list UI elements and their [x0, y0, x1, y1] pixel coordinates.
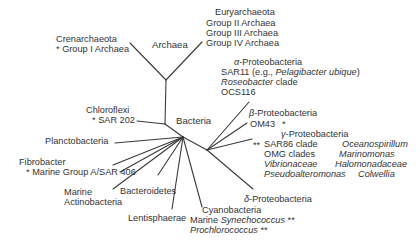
prochlorococcus-mark: ** — [258, 225, 268, 235]
sar11-prefix: SAR11 (e.g., — [221, 67, 275, 77]
label-fibrobacter: Fibrobacter — [19, 157, 65, 167]
label-lentisphaerae: Lentisphaerae — [128, 213, 186, 223]
label-alpha-proteobacteria: α-Proteobacteria — [234, 57, 302, 67]
label-oceanospirillum: Oceanospirillum — [342, 139, 408, 149]
label-cyanobacteria: Cyanobacteria — [202, 205, 261, 215]
delta-name: -Proteobacteria — [249, 194, 312, 204]
synechococcus-mark: ** — [285, 215, 295, 225]
label-sar86: SAR86 clade — [264, 139, 318, 149]
label-gamma-proteobacteria: γ-Proteobacteria — [281, 129, 348, 139]
synechococcus: Synechococcus — [221, 215, 285, 225]
roseobacter-suffix: clade — [273, 77, 298, 87]
label-marine-group-a: * Marine Group A/SAR 406 — [26, 167, 136, 177]
branch-bacteroidetes — [158, 137, 183, 175]
om43-mark: * — [282, 119, 286, 129]
label-om43: OM43* — [250, 119, 286, 129]
prochlorococcus: Prochlorococcus — [190, 225, 258, 235]
synechococcus-prefix: Marine — [190, 215, 221, 225]
branch-actinobacteria — [113, 137, 183, 189]
label-pseudoalteromonas: Pseudoalteromonas — [264, 169, 346, 179]
label-marine: Marine — [64, 187, 92, 197]
label-marine-synechococcus: Marine Synechococcus ** — [190, 215, 295, 225]
label-group-iv-archaea: Group IV Archaea — [206, 38, 279, 48]
branch-gamma — [207, 139, 252, 150]
label-roseobacter: Roseobacter clade — [221, 77, 298, 87]
label-colwellia: Colwellia — [358, 169, 395, 179]
label-group-iii-archaea: Group III Archaea — [206, 28, 278, 38]
branch-proteobacteria-stem — [183, 137, 207, 150]
branch-delta — [207, 150, 253, 189]
branch-fibrobacter — [113, 137, 183, 165]
branch-archaea-bacteria-trunk — [165, 80, 166, 124]
branch-chloroflexi — [137, 121, 165, 124]
label-bacteroidetes: Bacteroidetes — [120, 186, 176, 196]
gamma-name: -Proteobacteria — [286, 129, 349, 139]
label-planctobacteria: Planctobacteria — [45, 136, 108, 146]
sar11-suffix: ) — [357, 67, 360, 77]
label-archaea: Archaea — [152, 40, 188, 50]
label-delta-proteobacteria: δ-Proteobacteria — [244, 194, 312, 204]
label-chloroflexi: Chloroflexi — [86, 105, 129, 115]
label-ocs116: OCS116 — [221, 87, 256, 97]
beta-name: -Proteobacteria — [254, 108, 317, 118]
label-group-ii-archaea: Group II Archaea — [206, 18, 275, 28]
label-halomonadaceae: Halomonadaceae — [335, 159, 407, 169]
pelagibacter: Pelagibacter ubique — [275, 67, 356, 77]
branch-lentisphaerae — [172, 137, 183, 209]
alpha-name: -Proteobacteria — [239, 57, 302, 67]
label-crenarchaeota: Crenarchaeota — [56, 34, 117, 44]
label-marinomonas: Marinomonas — [339, 149, 395, 159]
label-beta-proteobacteria: β-Proteobacteria — [249, 108, 317, 118]
label-bacteria: Bacteria — [176, 116, 211, 126]
label-gamma-mark: ** — [253, 140, 260, 150]
label-vibrionaceae: Vibrionaceae — [264, 159, 317, 169]
label-prochlorococcus: Prochlorococcus ** — [190, 225, 268, 235]
label-omg-clades: OMG clades — [264, 149, 315, 159]
label-euryarchaeota: Euryarchaeota — [215, 7, 275, 17]
label-sar202: * SAR 202 — [92, 115, 135, 125]
label-sar11: SAR11 (e.g., Pelagibacter ubique) — [221, 67, 360, 77]
label-actinobacteria: Actinobacteria — [64, 197, 122, 207]
roseobacter: Roseobacter — [221, 77, 273, 87]
label-group-i-archaea: * Group I Archaea — [56, 44, 129, 54]
om43: OM43 — [250, 119, 275, 129]
branch-cyanobacteria — [183, 137, 202, 207]
